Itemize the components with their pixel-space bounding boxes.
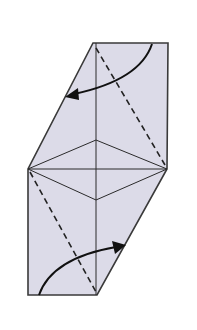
origami-diagram <box>0 0 197 330</box>
fold-diagram-canvas <box>0 0 197 330</box>
